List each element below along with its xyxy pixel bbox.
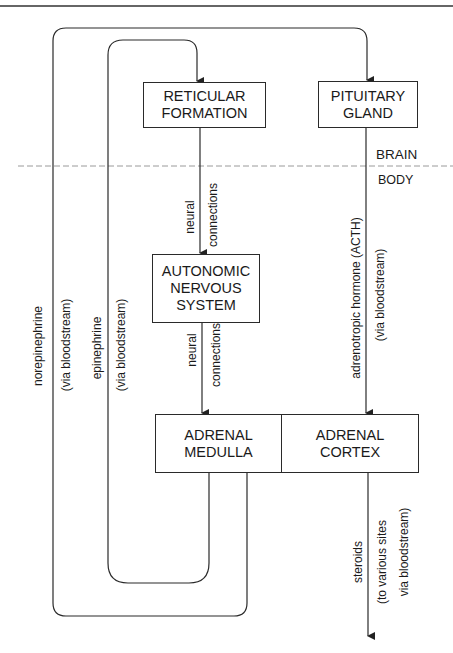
region-brain-label: BRAIN xyxy=(376,147,417,162)
label-neural-1: neural xyxy=(183,200,197,233)
label-steroids: steroids xyxy=(351,541,365,583)
node-pituitary-gland: PITUITARY GLAND xyxy=(318,81,418,128)
label-connections-1: connections xyxy=(206,183,220,247)
label-steroids-sites: (to various sites xyxy=(375,520,389,604)
label-norepinephrine: norepinephrine xyxy=(31,306,45,386)
node-autonomic-nervous-system: AUTONOMIC NERVOUS SYSTEM xyxy=(152,254,260,323)
label-epinephrine: epinephrine xyxy=(90,317,104,380)
label-epinephrine-bloodstream: (via bloodstream) xyxy=(114,299,128,392)
label-neural-2: neural xyxy=(185,333,199,366)
label-acth-bloodstream: (via bloodstream) xyxy=(373,249,387,342)
label-connections-2: connections xyxy=(209,323,223,387)
node-reticular-formation: RETICULAR FORMATION xyxy=(143,82,266,128)
label-acth: adrenotropic hormone (ACTH) xyxy=(349,217,363,378)
label-steroids-bloodstream: via bloodstream) xyxy=(397,508,411,597)
node-adrenal-cortex: ADRENAL CORTEX xyxy=(281,414,419,473)
region-body-label: BODY xyxy=(378,173,413,187)
label-norepinephrine-bloodstream: (via bloodstream) xyxy=(59,299,73,392)
node-adrenal-medulla: ADRENAL MEDULLA xyxy=(155,414,282,473)
